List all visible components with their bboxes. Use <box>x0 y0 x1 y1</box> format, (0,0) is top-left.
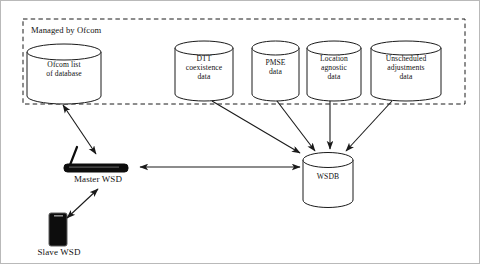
database-cylinder-pmse <box>252 41 299 101</box>
diagram-canvas: Managed by Ofcom Ofcom list of database … <box>0 0 480 264</box>
diagram-vector-layer <box>1 1 480 264</box>
connector-master-wsd-to-slave-wsd <box>67 189 98 218</box>
connector-ofcom-list-to-master-wsd <box>63 105 96 154</box>
connector-dtt-coexistence-to-wsdb <box>212 101 300 153</box>
connector-unscheduled-adjustments-to-wsdb <box>346 101 392 151</box>
database-cylinder-unscheduled-adjustments <box>371 41 441 101</box>
wireless-router-icon <box>64 147 128 172</box>
database-cylinder-wsdb <box>303 153 353 208</box>
database-cylinder-ofcom-list <box>27 44 101 104</box>
database-cylinder-location-agnostic <box>307 41 361 101</box>
database-cylinder-dtt-coexistence <box>175 41 233 101</box>
connector-pmse-to-wsdb <box>277 101 315 151</box>
mobile-phone-icon <box>49 213 67 246</box>
